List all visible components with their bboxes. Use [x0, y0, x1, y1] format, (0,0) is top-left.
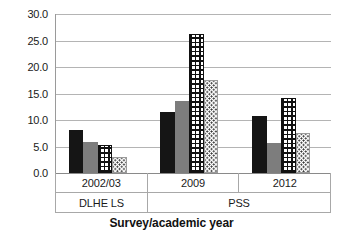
bar: [160, 112, 175, 173]
category-row-years: 2002/0320092012: [55, 173, 331, 193]
bar-chart: 30.025.020.015.010.05.00.0 2002/03200920…: [0, 0, 343, 241]
survey-label-PSS: PSS: [147, 193, 331, 213]
category-axis: 2002/0320092012 DLHE LSPSS: [55, 173, 331, 214]
bar-group: [239, 14, 331, 173]
y-tick-label: 25.0: [27, 36, 48, 47]
bar: [83, 142, 98, 173]
category-label-2009: 2009: [147, 173, 239, 193]
bar-group: [56, 14, 148, 173]
bar: [189, 34, 204, 173]
bars-layer: [56, 14, 331, 173]
category-row-surveys: DLHE LSPSS: [55, 193, 331, 213]
y-tick-label: 10.0: [27, 115, 48, 126]
y-tick-label: 20.0: [27, 62, 48, 73]
plot-area: [55, 14, 331, 173]
bar: [98, 145, 113, 173]
bar: [175, 101, 190, 173]
survey-label-DLHE-LS: DLHE LS: [55, 193, 147, 213]
bar: [296, 133, 311, 173]
y-tick-label: 5.0: [33, 142, 48, 153]
bar: [252, 116, 267, 173]
bar: [112, 157, 127, 173]
y-tick-label: 30.0: [27, 9, 48, 20]
bar: [281, 98, 296, 173]
y-axis: 30.025.020.015.010.05.00.0: [0, 0, 52, 180]
category-label-2002-03: 2002/03: [55, 173, 147, 193]
bar: [69, 130, 84, 173]
category-label-2012: 2012: [238, 173, 331, 193]
y-tick-label: 0.0: [33, 168, 48, 179]
bar: [204, 80, 219, 173]
bar: [267, 143, 282, 173]
x-axis-title: Survey/academic year: [0, 216, 343, 230]
bar-group: [148, 14, 240, 173]
y-tick-label: 15.0: [27, 89, 48, 100]
